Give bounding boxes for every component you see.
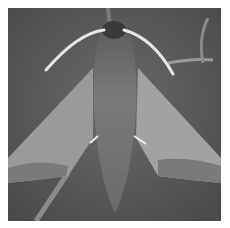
moth-photo — [8, 8, 221, 221]
moth-head — [102, 21, 126, 39]
moth-illustration — [8, 8, 221, 221]
